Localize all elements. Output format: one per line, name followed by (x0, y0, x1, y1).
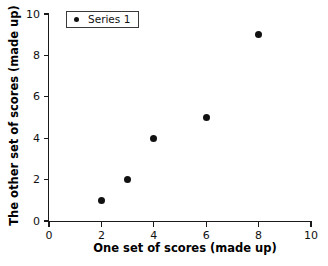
x-tick (101, 222, 102, 227)
x-tick-label: 6 (193, 230, 219, 241)
data-point (150, 135, 157, 142)
x-tick-label: 2 (88, 230, 114, 241)
data-point (203, 114, 210, 121)
x-tick-label: 0 (36, 230, 62, 241)
plot-area (49, 14, 311, 221)
data-point (255, 31, 262, 38)
scatter-chart: 0246810 0246810 Series 1 One set of scor… (0, 0, 328, 266)
data-point (98, 197, 105, 204)
x-tick-label: 4 (141, 230, 167, 241)
y-axis-title: The other set of scores (made up) (9, 12, 21, 226)
x-tick (206, 222, 207, 227)
x-tick (310, 222, 311, 227)
x-axis-title: One set of scores (made up) (0, 243, 328, 255)
legend-marker-icon (74, 17, 79, 22)
legend-item-label: Series 1 (88, 14, 130, 25)
x-tick-label: 10 (298, 230, 324, 241)
x-tick (258, 222, 259, 227)
data-point (124, 176, 131, 183)
legend: Series 1 (66, 11, 139, 28)
x-tick (153, 222, 154, 227)
x-tick (48, 222, 49, 227)
x-tick-label: 8 (246, 230, 272, 241)
